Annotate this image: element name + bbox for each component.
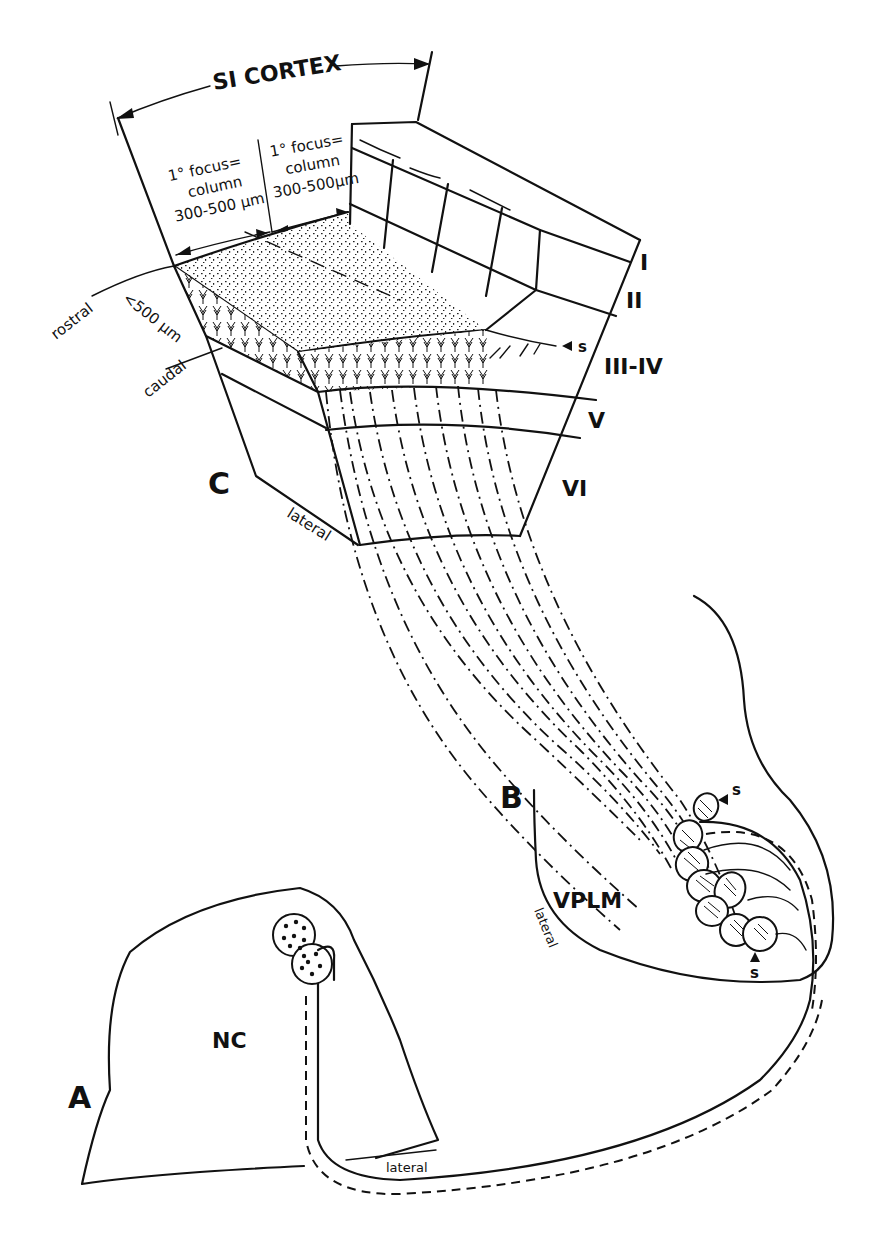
raised-block-left bbox=[350, 124, 352, 224]
layer-v-vi-boundary bbox=[326, 425, 580, 438]
block-bottom-edge bbox=[360, 535, 520, 545]
lemniscal-pathway bbox=[306, 976, 822, 1194]
layer-label-v: V bbox=[588, 408, 605, 433]
panel-c-lateral-label: lateral bbox=[284, 504, 334, 545]
solid-lemniscal-axon bbox=[318, 976, 810, 1180]
marker-arrowhead-icon bbox=[718, 794, 728, 805]
panel-b-letter: B bbox=[500, 780, 523, 815]
layer-label-iii-iv: III-IV bbox=[604, 354, 663, 379]
marker-arrowhead-icon bbox=[562, 341, 572, 351]
raised-block-top bbox=[352, 122, 640, 240]
surface-vessels bbox=[360, 140, 510, 210]
caudal-label: caudal bbox=[139, 356, 189, 401]
column-label-1: 1° focus= column 300-500 µm bbox=[164, 149, 266, 226]
panel-a-lateral-label: lateral bbox=[386, 1160, 428, 1175]
barrel-band-extension bbox=[486, 330, 556, 346]
column-grid-line bbox=[486, 208, 502, 296]
panel-c-cortex-block: SI CORTEX 1° focus= column 300-500 µm 1°… bbox=[47, 50, 663, 545]
nc-label: NC bbox=[212, 1028, 247, 1053]
thalamocortical-projection-diagram: SI CORTEX 1° focus= column 300-500 µm 1°… bbox=[0, 0, 886, 1243]
layer-label-i: I bbox=[640, 250, 648, 275]
barreloid-marker-s-top: s bbox=[732, 781, 741, 799]
cell-body bbox=[292, 944, 332, 984]
layer-label-vi: VI bbox=[562, 476, 587, 501]
vplm-label: VPLM bbox=[553, 888, 622, 913]
fiber-branch bbox=[748, 897, 798, 910]
nc-outline bbox=[82, 888, 438, 1184]
svg-text:300-500µm: 300-500µm bbox=[272, 169, 361, 202]
block-left-extent-line bbox=[118, 118, 174, 266]
layer-i-line bbox=[352, 148, 630, 262]
dendrite-branches bbox=[490, 344, 540, 358]
marker-arrowhead-icon bbox=[750, 952, 760, 962]
layer-labels: I II III-IV V VI bbox=[562, 250, 663, 501]
panel-a-nc: A NC lateral bbox=[68, 888, 438, 1184]
column-label-2: 1° focus= column 300-500µm bbox=[264, 129, 360, 202]
fiber-branch bbox=[776, 933, 806, 950]
distance-label: <500 µm bbox=[120, 289, 186, 346]
column-grid-line bbox=[384, 160, 393, 248]
arrowhead-icon bbox=[176, 246, 191, 255]
barreloid bbox=[690, 790, 722, 825]
rostral-label: rostral bbox=[47, 299, 96, 343]
barreloid-marker-s-bottom: s bbox=[750, 964, 759, 982]
lateral-line bbox=[346, 1150, 436, 1160]
panel-c-letter: C bbox=[208, 466, 230, 501]
layer-iv-v-boundary bbox=[318, 387, 596, 400]
layer-marker-s: s bbox=[578, 338, 587, 356]
column-grid-line bbox=[432, 184, 448, 272]
layer-label-ii: II bbox=[626, 288, 642, 313]
si-cortex-title: SI CORTEX bbox=[211, 50, 343, 95]
vplm-outline bbox=[534, 596, 833, 982]
trigeminal-cells bbox=[273, 914, 334, 984]
panel-a-letter: A bbox=[68, 1080, 92, 1115]
dashed-lemniscal-axon bbox=[306, 996, 822, 1194]
